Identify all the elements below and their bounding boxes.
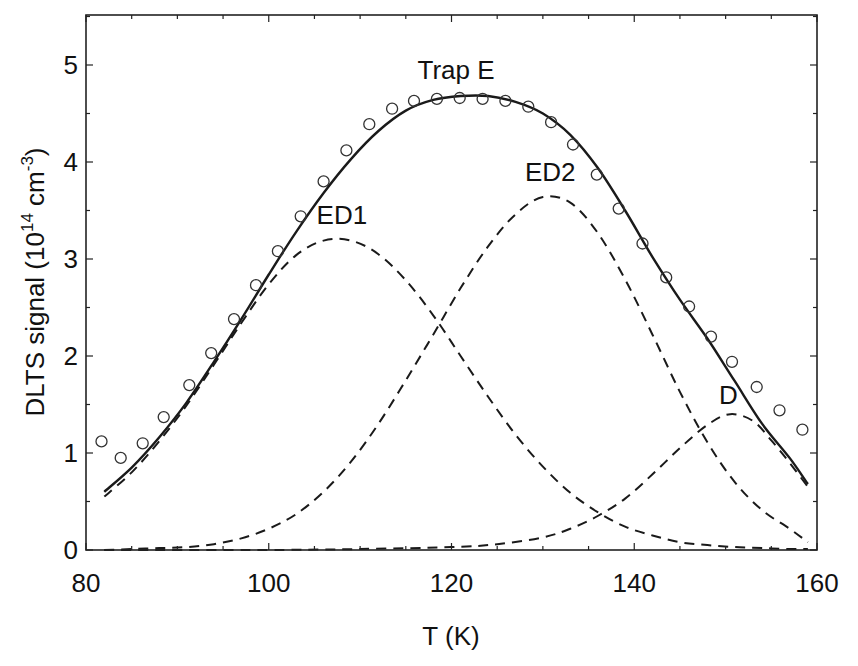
annotation-ed2: ED2 bbox=[525, 157, 576, 187]
data-point-marker bbox=[206, 348, 217, 359]
data-point-marker bbox=[272, 246, 283, 257]
y-tick-label: 0 bbox=[64, 535, 78, 565]
data-point-marker bbox=[797, 424, 808, 435]
data-point-marker bbox=[137, 438, 148, 449]
data-point-marker bbox=[727, 356, 738, 367]
y-axis-title-end: ) bbox=[20, 147, 50, 156]
x-tick-label: 120 bbox=[430, 568, 473, 598]
y-axis-title-exp2: -3 bbox=[18, 156, 37, 171]
annotation-trap-e: Trap E bbox=[418, 55, 495, 85]
data-point-marker bbox=[96, 436, 107, 447]
curve-annotations: Trap EED1ED2D bbox=[317, 55, 738, 410]
x-tick-label: 80 bbox=[72, 568, 101, 598]
y-tick-label: 1 bbox=[64, 438, 78, 468]
x-tick-label: 160 bbox=[795, 568, 838, 598]
y-tick-label: 4 bbox=[64, 147, 78, 177]
y-tick-label: 5 bbox=[64, 50, 78, 80]
data-point-marker bbox=[341, 145, 352, 156]
ed1-curve bbox=[104, 239, 808, 549]
y-tick-label: 2 bbox=[64, 341, 78, 371]
y-tick-label: 3 bbox=[64, 244, 78, 274]
data-point-marker bbox=[229, 314, 240, 325]
data-point-marker bbox=[318, 176, 329, 187]
data-point-marker bbox=[364, 119, 375, 130]
data-point-marker bbox=[115, 452, 126, 463]
data-point-marker bbox=[251, 280, 262, 291]
annotation-d: D bbox=[719, 380, 738, 410]
x-tick-label: 100 bbox=[247, 568, 290, 598]
ed2-curve bbox=[104, 196, 808, 550]
y-axis-title-main: DLTS signal (10 bbox=[20, 232, 50, 417]
dlts-chart: 80100120140160 012345 Trap EED1ED2D T (K… bbox=[0, 0, 858, 666]
data-point-marker bbox=[568, 139, 579, 150]
data-point-marker bbox=[774, 405, 785, 416]
data-point-marker bbox=[387, 103, 398, 114]
fit-sum-curve bbox=[104, 95, 808, 491]
y-axis-title-exp1: 14 bbox=[18, 213, 37, 232]
data-point-marker bbox=[158, 412, 169, 423]
y-tick-labels: 012345 bbox=[64, 50, 78, 565]
data-point-marker bbox=[295, 211, 306, 222]
data-point-marker bbox=[591, 169, 602, 180]
curves bbox=[104, 95, 808, 550]
data-point-marker bbox=[454, 93, 465, 104]
x-axis-title: T (K) bbox=[422, 621, 479, 651]
plot-frame bbox=[86, 15, 817, 550]
data-point-marker bbox=[184, 380, 195, 391]
data-point-marker bbox=[409, 95, 420, 106]
data-point-marker bbox=[751, 382, 762, 393]
data-markers bbox=[96, 93, 808, 464]
x-tick-label: 140 bbox=[613, 568, 656, 598]
plot-area bbox=[96, 93, 808, 551]
axis-ticks bbox=[86, 15, 817, 550]
y-axis-title: DLTS signal (1014 cm-3) bbox=[18, 147, 50, 416]
x-tick-labels: 80100120140160 bbox=[72, 568, 839, 598]
annotation-ed1: ED1 bbox=[317, 200, 368, 230]
y-axis-title-mid: cm bbox=[20, 171, 50, 213]
